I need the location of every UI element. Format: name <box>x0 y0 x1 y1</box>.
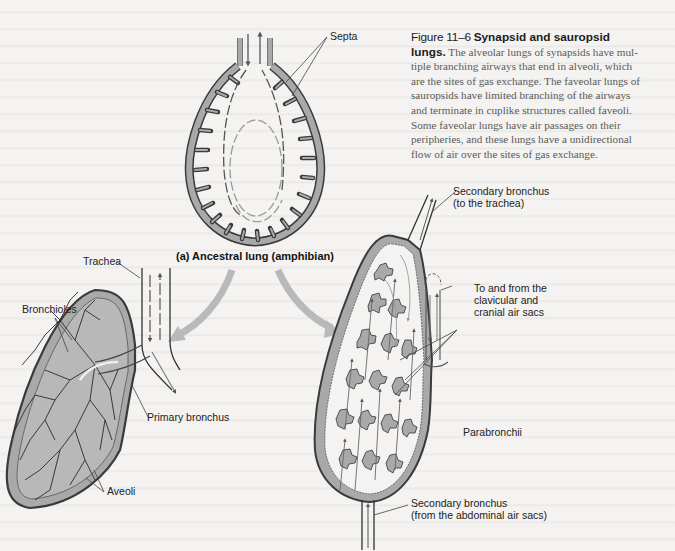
caption-line: flow of air over the sites of gas exchan… <box>411 147 673 162</box>
label-septa: Septa <box>330 30 357 42</box>
figure-number: Figure 11–6 <box>411 30 471 44</box>
caption-line: The alveolar lungs of synapsids have mul… <box>448 46 638 58</box>
figure-caption: Figure 11–6 Synapsid and sauropsid lungs… <box>411 30 673 161</box>
caption-line: tiple branching airways that end in alve… <box>411 59 673 74</box>
label-alveoli: Aveoli <box>107 485 135 497</box>
caption-line: sauropsids have limited branching of the… <box>411 88 673 103</box>
label-secondary-bronchus-top: Secondary bronchus (to the trachea) <box>453 185 549 209</box>
evolution-arrows <box>168 270 342 342</box>
label-secondary-bronchus-bottom: Secondary bronchus (from the abdominal a… <box>411 497 547 521</box>
panel-a-title: (a) Ancestral lung (amphibian) <box>176 250 334 262</box>
label-air-sacs: To and from the clavicular and cranial a… <box>474 282 547 318</box>
label-primary-bronchus: Primary bronchus <box>147 411 229 423</box>
caption-line: peripheries, and these lungs have a unid… <box>411 132 673 147</box>
ancestral-lung-diagram <box>189 34 327 242</box>
synapsid-lung-diagram <box>7 262 180 508</box>
caption-line: Some faveolar lungs have air passages on… <box>411 118 673 133</box>
figure-title-part1: Synapsid and sauropsid <box>474 30 610 44</box>
label-bronchioles: Bronchioles <box>22 303 77 315</box>
label-parabronchii: Parabronchii <box>463 426 522 438</box>
caption-line: are the sites of gas exchange. The faveo… <box>411 74 673 89</box>
caption-line: and terminate in cuplike structures call… <box>411 103 673 118</box>
label-trachea: Trachea <box>83 255 121 267</box>
textbook-page: Septa (a) Ancestral lung (amphibian) Tra… <box>0 0 675 551</box>
figure-title-part2: lungs. <box>411 45 446 59</box>
